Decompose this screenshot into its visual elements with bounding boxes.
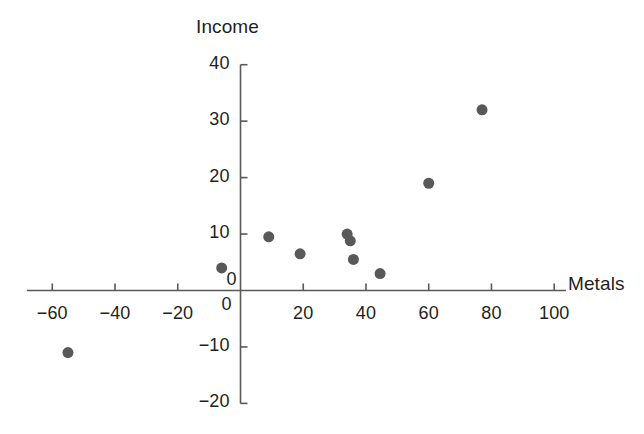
x-tick-label: −40 (100, 303, 131, 324)
x-tick-label: 80 (481, 303, 501, 324)
data-point (423, 178, 434, 189)
y-tick-label: 20 (184, 166, 230, 187)
data-point (295, 248, 306, 259)
tick-marks-group (52, 65, 554, 404)
data-point (263, 231, 274, 242)
x-tick-label: 20 (293, 303, 313, 324)
x-tick-label: −60 (37, 303, 68, 324)
x-tick-label: 100 (539, 303, 569, 324)
x-tick-label: 0 (226, 269, 236, 290)
axes-group (27, 65, 566, 404)
scatter-plot-figure: Income Metals −60−40−20020406080100−20−1… (0, 0, 644, 434)
y-tick-label: −10 (184, 335, 230, 356)
y-tick-label: 10 (184, 222, 230, 243)
x-tick-label: 40 (356, 303, 376, 324)
plot-canvas (0, 0, 644, 434)
data-point (477, 104, 488, 115)
y-tick-label: 40 (184, 53, 230, 74)
y-tick-label: 0 (186, 294, 232, 315)
data-point (62, 347, 73, 358)
data-point (375, 268, 386, 279)
data-point (345, 235, 356, 246)
y-tick-label: −20 (184, 391, 230, 412)
x-tick-label: 60 (419, 303, 439, 324)
data-point (348, 254, 359, 265)
y-tick-label: 30 (184, 109, 230, 130)
